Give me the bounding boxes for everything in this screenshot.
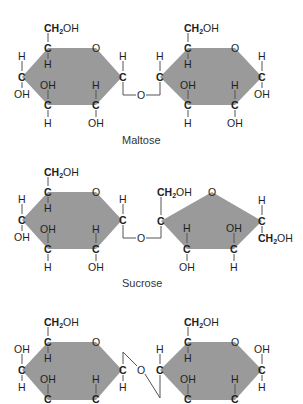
ring-oxygen: O xyxy=(92,336,100,348)
hydroxyl: OH xyxy=(180,79,196,91)
ch2oh-label: CH2OH xyxy=(184,22,219,35)
glycosidic-oxygen: O xyxy=(137,364,145,376)
hydrogen: H xyxy=(44,202,52,214)
hydroxyl: OH xyxy=(40,79,56,91)
carbon: C xyxy=(183,243,191,255)
hydroxyl: OH xyxy=(254,343,270,355)
carbon: C xyxy=(92,99,100,111)
hydroxyl: OH xyxy=(227,117,243,129)
carbon: C xyxy=(92,243,100,255)
carbon: C xyxy=(44,336,52,348)
hydrogen: H xyxy=(44,261,52,273)
maltose-structure: CH2OH C H O H C OH OH C H H C OH H C O C… xyxy=(14,22,270,146)
hydrogen: H xyxy=(156,50,164,62)
carbon: C xyxy=(184,336,192,348)
ch2oh-label: CH2OH xyxy=(157,186,192,199)
hydrogen: H xyxy=(92,223,100,235)
carbon: C xyxy=(184,99,192,111)
disaccharide-diagram: CH2OH C H O H C OH OH C H H C OH H C O C… xyxy=(0,0,303,404)
hydrogen: H xyxy=(92,373,100,385)
hydroxyl: OH xyxy=(88,261,104,273)
hydrogen: H xyxy=(230,261,238,273)
carbon: C xyxy=(18,71,26,83)
hydroxyl: OH xyxy=(180,373,196,385)
carbon: C xyxy=(258,364,266,376)
hydrogen: H xyxy=(231,79,239,91)
hydrogen: H xyxy=(44,352,52,364)
hydrogen: H xyxy=(92,79,100,91)
ch2oh-label: CH2OH xyxy=(44,316,79,329)
carbon: C xyxy=(92,393,100,404)
ring-oxygen: O xyxy=(208,186,216,198)
hydrogen: H xyxy=(184,352,192,364)
carbon: C xyxy=(156,364,164,376)
carbon: C xyxy=(157,215,165,227)
hydrogen: H xyxy=(156,343,164,355)
ch2oh-label: CH2OH xyxy=(44,166,79,179)
hydroxyl: OH xyxy=(40,373,56,385)
sucrose-fructose-ring xyxy=(161,192,262,249)
maltose-label: Maltose xyxy=(122,134,161,146)
sucrose-structure: CH2OH C H O H C OH OH C H H C OH H C O C… xyxy=(14,166,293,289)
carbon: C xyxy=(44,243,52,255)
carbon: C xyxy=(119,364,127,376)
ch2oh-label: CH2OH xyxy=(184,316,219,329)
carbon: C xyxy=(231,99,239,111)
carbon: C xyxy=(184,42,192,54)
hydrogen: H xyxy=(184,58,192,70)
carbon: C xyxy=(231,393,239,404)
ch2oh-label: CH2OH xyxy=(258,232,293,245)
ring-oxygen: O xyxy=(92,42,100,54)
ring-oxygen: O xyxy=(92,186,100,198)
hydrogen: H xyxy=(183,222,191,234)
third-disaccharide-structure: CH2OH C H O OH C H OH C H C C H O CH2OH … xyxy=(14,316,270,404)
hydroxyl: OH xyxy=(14,88,30,100)
glycosidic-oxygen: O xyxy=(137,89,145,101)
ring-oxygen: O xyxy=(231,336,239,348)
third-ring-2 xyxy=(160,342,262,400)
carbon: C xyxy=(258,71,266,83)
ring-oxygen: O xyxy=(231,42,239,54)
ch2oh-label: CH2OH xyxy=(44,22,79,35)
carbon: C xyxy=(44,186,52,198)
carbon: C xyxy=(230,243,238,255)
hydrogen: H xyxy=(44,58,52,70)
hydrogen: H xyxy=(119,50,127,62)
hydrogen: H xyxy=(18,381,26,393)
hydroxyl: OH xyxy=(226,222,242,234)
carbon: C xyxy=(44,393,52,404)
carbon: C xyxy=(184,393,192,404)
carbon: C xyxy=(18,214,26,226)
carbon: C xyxy=(119,214,127,226)
carbon: C xyxy=(44,42,52,54)
maltose-ring-2 xyxy=(160,48,262,105)
hydroxyl: OH xyxy=(88,117,104,129)
hydrogen: H xyxy=(119,193,127,205)
hydroxyl: OH xyxy=(254,88,270,100)
third-ring-1 xyxy=(22,342,122,400)
carbon: C xyxy=(44,99,52,111)
maltose-ring-1 xyxy=(22,48,122,105)
carbon: C xyxy=(119,71,127,83)
carbon: C xyxy=(156,71,164,83)
hydrogen: H xyxy=(18,193,26,205)
hydrogen: H xyxy=(184,117,192,129)
hydrogen: H xyxy=(119,381,127,393)
glycosidic-oxygen: O xyxy=(137,232,145,244)
hydrogen: H xyxy=(231,373,239,385)
sucrose-label: Sucrose xyxy=(122,277,162,289)
hydrogen: H xyxy=(258,194,266,206)
sucrose-glucose-ring xyxy=(22,192,122,249)
hydroxyl: OH xyxy=(179,261,195,273)
carbon: C xyxy=(258,215,266,227)
hydroxyl: OH xyxy=(14,343,30,355)
hydrogen: H xyxy=(18,50,26,62)
hydroxyl: OH xyxy=(14,231,30,243)
hydrogen: H xyxy=(258,50,266,62)
hydroxyl: OH xyxy=(40,223,56,235)
carbon: C xyxy=(18,364,26,376)
hydrogen: H xyxy=(258,381,266,393)
hydrogen: H xyxy=(44,117,52,129)
